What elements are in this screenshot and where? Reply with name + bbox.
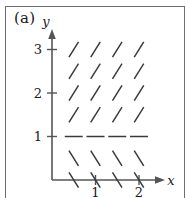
slope-segment bbox=[69, 85, 79, 100]
slope-segment bbox=[112, 85, 122, 100]
slope-segment bbox=[112, 42, 122, 57]
ticks-group bbox=[47, 50, 139, 186]
slope-segment bbox=[91, 85, 101, 100]
x-tick-label: 1 bbox=[91, 185, 99, 198]
slope-segment bbox=[69, 42, 79, 57]
axes-group bbox=[48, 29, 165, 184]
slope-segment bbox=[112, 151, 122, 166]
slope-segment bbox=[112, 107, 122, 122]
y-tick-label: 1 bbox=[34, 129, 42, 144]
x-axis-arrow-icon bbox=[155, 176, 165, 184]
x-axis-label: x bbox=[167, 173, 175, 188]
slope-segment bbox=[134, 107, 144, 122]
slope-segment bbox=[91, 64, 101, 79]
y-tick-label: 2 bbox=[34, 86, 42, 101]
slope-segment bbox=[112, 64, 122, 79]
slope-segment bbox=[69, 107, 79, 122]
slope-segment bbox=[134, 151, 144, 166]
slope-segment bbox=[69, 64, 79, 79]
slope-field-figure: (a) 12312 x y bbox=[0, 0, 186, 198]
x-tick-label: 2 bbox=[135, 185, 143, 198]
slope-marks-group bbox=[65, 42, 148, 188]
plot-area: 12312 x y bbox=[0, 0, 186, 198]
slope-segment bbox=[91, 42, 101, 57]
slope-segment bbox=[91, 151, 101, 166]
y-axis-arrow-icon bbox=[48, 29, 56, 39]
slope-segment bbox=[134, 85, 144, 100]
slope-segment bbox=[134, 64, 144, 79]
y-axis-label: y bbox=[41, 14, 50, 29]
slope-segment bbox=[91, 107, 101, 122]
y-tick-label: 3 bbox=[34, 42, 42, 57]
slope-segment bbox=[134, 42, 144, 57]
tick-labels-group: 12312 bbox=[34, 42, 143, 198]
slope-segment bbox=[69, 151, 79, 166]
